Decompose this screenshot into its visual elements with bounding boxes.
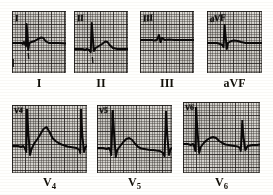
- caption-lead-V4: V4: [12, 175, 87, 191]
- ecg-panel-lead-II: II: [74, 11, 128, 73]
- ecg-figure: I II III: [0, 0, 273, 195]
- ecg-grid-paper: V6: [183, 102, 260, 173]
- ecg-panel-lead-V5: V5: [97, 105, 172, 173]
- handwritten-lead-label: III: [142, 13, 153, 23]
- ecg-panel-lead-I: I: [12, 11, 66, 73]
- ecg-trace-lead-V4: [12, 105, 87, 173]
- ecg-trace-lead-I: [12, 11, 66, 73]
- ecg-trace-lead-V6: [183, 102, 260, 173]
- caption-sub: 5: [137, 181, 141, 191]
- caption-lead-V5: V5: [97, 175, 172, 191]
- handwritten-lead-label: aVF: [210, 13, 227, 24]
- caption-lead-V6: V6: [183, 175, 260, 191]
- ecg-grid-paper: I: [12, 11, 66, 73]
- ecg-grid-paper: V4: [12, 105, 87, 173]
- caption-main: V: [43, 175, 52, 189]
- caption-sub: 4: [52, 181, 56, 191]
- ecg-panel-lead-V4: V4: [12, 105, 87, 173]
- ecg-grid-paper: III: [140, 11, 194, 73]
- ecg-grid-paper: V5: [97, 105, 172, 173]
- ecg-panel-lead-III: III: [140, 11, 194, 73]
- caption-lead-aVF: aVF: [195, 76, 273, 91]
- ecg-panel-lead-aVF: aVF: [207, 11, 262, 73]
- handwritten-lead-label: V5: [99, 106, 109, 115]
- handwritten-lead-label: V4: [14, 106, 24, 115]
- caption-main: V: [215, 175, 224, 189]
- ecg-trace-lead-V5: [97, 105, 172, 173]
- ecg-grid-paper: aVF: [207, 11, 262, 73]
- caption-main: V: [128, 175, 137, 189]
- handwritten-lead-label: II: [76, 14, 83, 24]
- ecg-grid-paper: II: [74, 11, 128, 73]
- ecg-panel-lead-V6: V6: [183, 102, 260, 173]
- handwritten-lead-label: V6: [185, 103, 195, 112]
- caption-sub: 6: [224, 181, 228, 191]
